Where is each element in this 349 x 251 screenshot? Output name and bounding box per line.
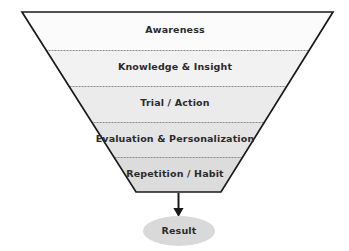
stage-label-repetition-habit: Repetition / Habit bbox=[126, 169, 224, 179]
stage-label-trial-action: Trial / Action bbox=[140, 98, 209, 108]
result-label: Result bbox=[162, 226, 197, 236]
arrow-head-icon bbox=[173, 208, 183, 217]
funnel-graphic bbox=[0, 0, 349, 251]
funnel-diagram: Awareness Knowledge & Insight Trial / Ac… bbox=[0, 0, 349, 251]
stage-label-knowledge-insight: Knowledge & Insight bbox=[118, 62, 232, 72]
stage-label-awareness: Awareness bbox=[145, 25, 205, 35]
stage-label-evaluation-personalization: Evaluation & Personalization bbox=[96, 134, 255, 144]
